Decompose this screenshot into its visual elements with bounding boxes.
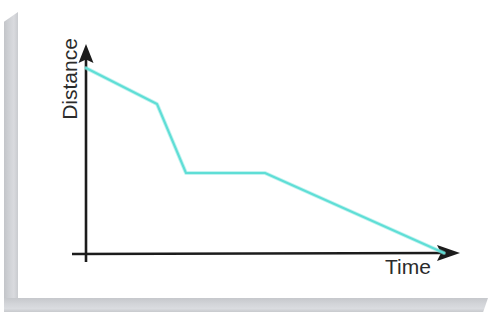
series-line [86, 68, 444, 253]
x-axis-label: Time [385, 256, 431, 278]
screenshot-root: Distance Time [0, 0, 492, 312]
data-series-distance [86, 68, 444, 253]
y-axis-label: Distance [59, 25, 81, 133]
x-axis-line [72, 253, 441, 254]
